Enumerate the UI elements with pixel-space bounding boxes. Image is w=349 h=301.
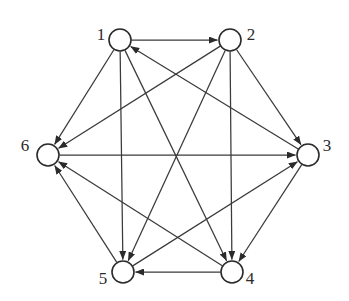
edge-5-3 bbox=[133, 162, 298, 266]
edges-group bbox=[55, 40, 302, 272]
node-1[interactable] bbox=[109, 29, 131, 51]
directed-graph-svg: 123456 bbox=[0, 0, 349, 301]
edge-2-6 bbox=[59, 46, 221, 148]
node-label-1: 1 bbox=[97, 25, 106, 44]
node-4[interactable] bbox=[221, 261, 243, 283]
node-label-4: 4 bbox=[246, 269, 255, 288]
edge-3-1 bbox=[131, 47, 299, 149]
node-label-3: 3 bbox=[323, 136, 332, 155]
node-5[interactable] bbox=[112, 261, 134, 283]
diagram-canvas: 123456 bbox=[0, 0, 349, 301]
node-label-2: 2 bbox=[247, 25, 256, 44]
node-3[interactable] bbox=[297, 144, 319, 166]
node-label-5: 5 bbox=[99, 269, 108, 288]
edge-4-6 bbox=[59, 162, 223, 266]
edge-5-6 bbox=[55, 166, 117, 263]
edge-1-6 bbox=[55, 50, 114, 145]
node-label-6: 6 bbox=[21, 136, 30, 155]
node-6[interactable] bbox=[37, 144, 59, 166]
node-2[interactable] bbox=[219, 29, 241, 51]
